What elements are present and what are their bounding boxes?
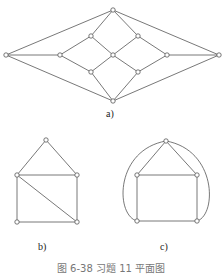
label-a: a) bbox=[106, 108, 114, 119]
graph-vertex bbox=[195, 173, 199, 177]
figure-caption: 图 6-38 习题 11 平面图 bbox=[0, 260, 222, 275]
graph-vertex bbox=[136, 34, 140, 38]
graph-vertex bbox=[135, 219, 139, 223]
graph-vertex bbox=[44, 138, 48, 142]
graph-edge bbox=[60, 55, 91, 72]
graph-vertex bbox=[75, 220, 79, 224]
graph-edge bbox=[91, 10, 113, 36]
planar-graph-figure bbox=[0, 0, 222, 278]
graph-edge bbox=[91, 36, 113, 55]
graph-vertex bbox=[135, 173, 139, 177]
graph-edge bbox=[138, 55, 167, 72]
graph-edge bbox=[113, 55, 219, 101]
graph-edge bbox=[17, 140, 46, 175]
graph-edge bbox=[46, 140, 77, 175]
graph-edge bbox=[137, 141, 166, 175]
graph-vertex bbox=[111, 99, 115, 103]
graph-vertex bbox=[165, 53, 169, 57]
graph-vertex bbox=[89, 34, 93, 38]
graph-arc bbox=[166, 141, 209, 221]
graph-arc bbox=[123, 141, 166, 221]
label-b: b) bbox=[38, 241, 46, 252]
graph-edge bbox=[113, 10, 138, 36]
graph-vertex bbox=[15, 220, 19, 224]
graph-vertex bbox=[111, 8, 115, 12]
graph-c bbox=[123, 139, 209, 223]
graph-edge bbox=[91, 55, 113, 72]
graph-edge bbox=[60, 36, 91, 55]
graph-edge bbox=[17, 175, 77, 222]
label-c: c) bbox=[160, 241, 168, 252]
graph-vertex bbox=[111, 53, 115, 57]
graph-vertex bbox=[75, 173, 79, 177]
graph-vertex bbox=[136, 70, 140, 74]
graph-a bbox=[4, 8, 221, 103]
graph-edge bbox=[6, 10, 113, 55]
graph-vertex bbox=[58, 53, 62, 57]
graph-edge bbox=[113, 10, 219, 55]
graph-edge bbox=[113, 72, 138, 101]
graph-edge bbox=[113, 36, 138, 55]
graph-vertex bbox=[15, 173, 19, 177]
graph-b bbox=[15, 138, 79, 224]
graph-vertex bbox=[195, 219, 199, 223]
graph-vertex bbox=[89, 70, 93, 74]
graph-edge bbox=[6, 55, 113, 101]
graph-edge bbox=[138, 36, 167, 55]
graph-vertex bbox=[164, 139, 168, 143]
graph-vertex bbox=[217, 53, 221, 57]
graph-vertex bbox=[4, 53, 8, 57]
graph-edge bbox=[113, 55, 138, 72]
